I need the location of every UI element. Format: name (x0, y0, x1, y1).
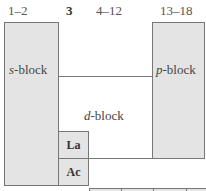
header-groups-4-12: 4–12 (96, 3, 122, 19)
d-block-label: d-block (84, 108, 124, 124)
lanthanum-label: La (66, 138, 80, 153)
p-block: p-block (152, 22, 205, 159)
p-block-label: p-block (156, 62, 196, 78)
actinium-cell: Ac (58, 158, 89, 186)
s-block-suffix: -block (14, 62, 47, 77)
s-block: s-block (4, 22, 59, 186)
header-groups-1-2: 1–2 (8, 3, 28, 19)
f-block-cell (153, 188, 187, 191)
d-block-bottom-border (89, 158, 205, 159)
d-block-top-border (58, 76, 152, 77)
p-block-suffix: -block (163, 62, 196, 77)
f-block-cell (186, 188, 206, 191)
actinium-label: Ac (67, 165, 81, 180)
f-block-cell (89, 188, 122, 191)
header-groups-13-18: 13–18 (160, 3, 193, 19)
lanthanum-cell: La (58, 131, 89, 159)
s-block-label: s-block (9, 62, 47, 78)
d-block-suffix: -block (91, 108, 124, 123)
f-block-cell (121, 188, 154, 191)
header-group-3: 3 (66, 3, 73, 19)
